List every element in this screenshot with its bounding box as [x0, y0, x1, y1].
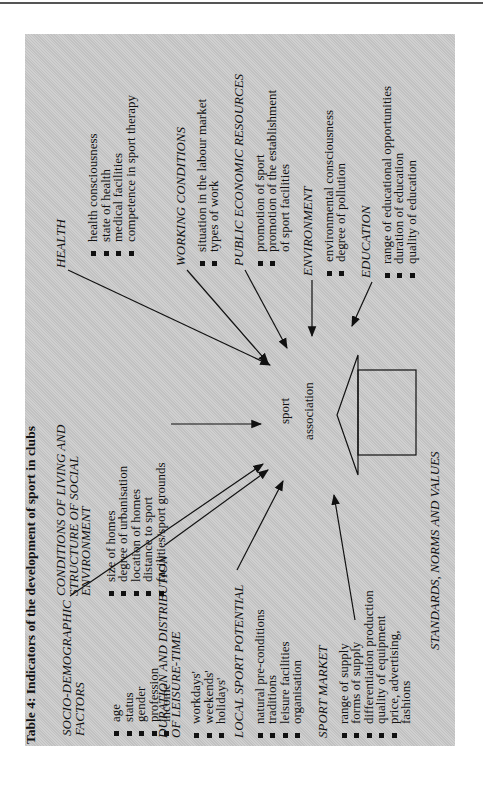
heading-socio-demographic: SOCIO-DEMOGRAPHIC FACTORS	[61, 600, 86, 736]
arrow-working-conditions	[187, 270, 268, 363]
rotated-table: Table 4: Indicators of the development o…	[25, 34, 455, 746]
arrow-leisure-time	[165, 470, 268, 545]
norms-arrow-head-shape	[337, 355, 358, 475]
arrow-public-economic	[245, 270, 287, 348]
heading-local-sport-potential: LOCAL SPORT POTENTIAL	[233, 585, 246, 738]
list-item: competence in sport therapy	[125, 95, 138, 256]
heading-working-conditions: WORKING CONDITIONS	[175, 99, 188, 266]
arrow-health	[68, 270, 270, 365]
standards-norms-values-label: STANDARDS, NORMS AND VALUES	[429, 451, 442, 650]
group-leisure-time: DURATION AND DISTRIBUTION OF LEISURE-TIM…	[157, 555, 228, 738]
group-education: EDUCATION range of educational opportuni…	[360, 86, 418, 278]
heading-public-economic-resources: PUBLIC ECONOMIC RESOURCES	[233, 74, 246, 266]
group-sport-market: SPORT MARKET range of supply forms of su…	[317, 590, 413, 738]
group-local-sport-potential: LOCAL SPORT POTENTIAL natural pre-condit…	[233, 585, 304, 738]
list-item: organisation	[291, 585, 304, 738]
group-environment: ENVIRONMENT environmental consciousness …	[302, 110, 348, 276]
group-working-conditions: WORKING CONDITIONS situation in the labo…	[175, 99, 221, 266]
list-item: fashions	[400, 590, 413, 738]
list-item: holidays'	[215, 555, 228, 738]
group-public-economic-resources: PUBLIC ECONOMIC RESOURCES promotion of s…	[233, 74, 291, 266]
page-top-rule	[0, 2, 483, 4]
heading-conditions-of-living: CONDITIONS OF LIVING AND STRUCTURE OF SO…	[55, 425, 93, 596]
heading-sport-market: SPORT MARKET	[317, 590, 330, 738]
heading-education: EDUCATION	[360, 86, 373, 278]
group-health: HEALTH	[55, 219, 68, 268]
list-item: of sport facilities	[279, 74, 292, 266]
norms-arrow-body-shape	[358, 370, 416, 455]
heading-environment: ENVIRONMENT	[302, 110, 315, 276]
list-item: quality of education	[406, 86, 419, 278]
list-health: health consciousness state of health med…	[81, 95, 137, 256]
list-item: types of work	[208, 99, 221, 266]
center-label-sport-association: sport association	[277, 366, 317, 456]
list-item: degree of pollution	[335, 110, 348, 276]
group-conditions-of-living: CONDITIONS OF LIVING AND STRUCTURE OF SO…	[55, 425, 167, 596]
heading-leisure-time: DURATION AND DISTRIBUTION OF LEISURE-TIM…	[157, 555, 182, 738]
heading-health: HEALTH	[55, 219, 68, 268]
arrow-local-sport	[237, 481, 283, 570]
arrow-education	[352, 282, 372, 326]
